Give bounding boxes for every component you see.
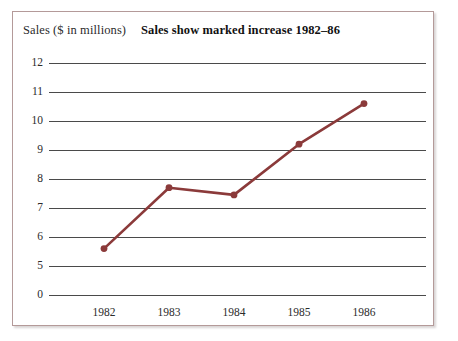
data-point-marker	[166, 184, 173, 191]
plot-area: 121110987650 19821983198419851986	[13, 12, 433, 325]
data-point-marker	[231, 192, 238, 199]
series-markers-sales	[101, 100, 368, 252]
data-point-marker	[101, 245, 108, 252]
data-point-marker	[296, 141, 303, 148]
chart-frame: Sales ($ in millions) Sales show marked …	[12, 11, 434, 326]
data-point-marker	[361, 100, 368, 107]
data-series-layer	[13, 12, 435, 327]
series-line-sales	[104, 104, 364, 249]
